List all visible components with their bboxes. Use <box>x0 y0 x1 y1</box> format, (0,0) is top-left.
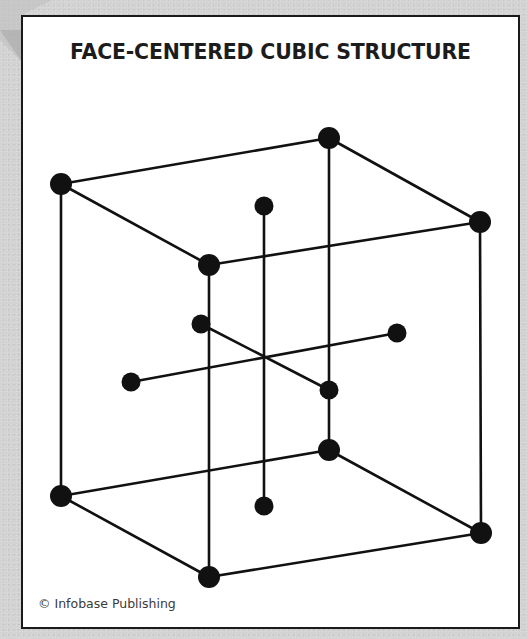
bond-top-front-right-to-top-front-left <box>209 222 480 265</box>
atom-face-front-right <box>320 381 339 400</box>
atom-bottom-back-left <box>50 485 72 507</box>
bond-top-back-left-to-top-back-right <box>61 138 329 184</box>
atom-face-left <box>122 373 141 392</box>
bond-top-front-right-to-bottom-front-right <box>480 222 481 533</box>
atom-face-bottom <box>255 497 274 516</box>
atom-face-back-left <box>192 315 211 334</box>
atom-bottom-back-right <box>318 439 340 461</box>
atom-top-front-right <box>469 211 491 233</box>
bond-bottom-back-right-to-bottom-front-right <box>329 450 481 533</box>
atom-top-front-left <box>198 254 220 276</box>
atom-top-back-left <box>50 173 72 195</box>
bond-bottom-front-left-to-bottom-back-left <box>61 496 209 577</box>
atom-face-top <box>255 197 274 216</box>
bond-bottom-front-right-to-bottom-front-left <box>209 533 481 577</box>
bond-top-back-right-to-top-front-right <box>329 138 480 222</box>
atom-top-back-right <box>318 127 340 149</box>
bond-top-front-left-to-top-back-left <box>61 184 209 265</box>
fcc-cube-diagram <box>0 0 528 639</box>
atom-bottom-front-left <box>198 566 220 588</box>
atom-bottom-front-right <box>470 522 492 544</box>
atom-face-right <box>388 324 407 343</box>
bond-bottom-back-left-to-bottom-back-right <box>61 450 329 496</box>
